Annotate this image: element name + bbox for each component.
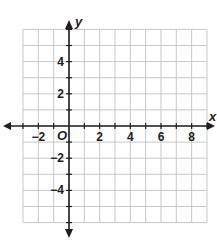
x-tick-label: −2 bbox=[31, 130, 45, 144]
y-tick-label: −2 bbox=[50, 151, 64, 165]
x-tick-label: 2 bbox=[96, 130, 103, 144]
origin-label: O bbox=[57, 128, 67, 143]
x-axis-left-arrow-icon bbox=[3, 122, 11, 130]
y-axis-label: y bbox=[74, 14, 83, 29]
coordinate-plane: −2246842−2−4 x y O bbox=[0, 0, 217, 248]
y-axis-up-arrow-icon bbox=[65, 20, 73, 29]
x-axis-label: x bbox=[208, 109, 217, 124]
y-tick-label: 2 bbox=[57, 87, 64, 101]
x-axis bbox=[3, 122, 215, 130]
y-tick-label: 4 bbox=[57, 55, 64, 69]
x-tick-label: 8 bbox=[188, 130, 195, 144]
y-tick-label: −4 bbox=[50, 183, 64, 197]
x-tick-label: 4 bbox=[127, 130, 134, 144]
x-tick-label: 6 bbox=[158, 130, 165, 144]
y-axis-down-arrow-icon bbox=[65, 229, 73, 238]
